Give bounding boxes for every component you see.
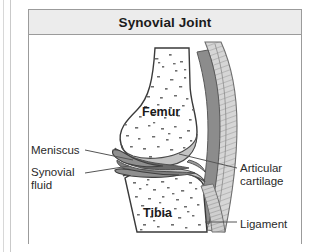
figure-container: Synovial Joint xyxy=(28,9,302,244)
anatomy-illustration: Femur Tibia Meniscus Synovial fluid Arti… xyxy=(29,36,301,244)
label-ligament: Ligament xyxy=(240,218,287,231)
figure-title-bar: Synovial Joint xyxy=(29,10,301,35)
page-root: Synovial Joint xyxy=(0,0,313,252)
tibia-bone xyxy=(125,171,207,232)
label-synovial-fluid: Synovial fluid xyxy=(31,166,91,192)
label-articular-cartilage: Articular cartilage xyxy=(240,162,301,188)
label-meniscus: Meniscus xyxy=(31,144,80,157)
page-edge-strip xyxy=(0,0,11,252)
page-edge-line xyxy=(3,0,4,252)
label-tibia: Tibia xyxy=(143,206,172,220)
figure-title: Synovial Joint xyxy=(119,15,212,30)
label-femur: Femur xyxy=(142,105,180,119)
